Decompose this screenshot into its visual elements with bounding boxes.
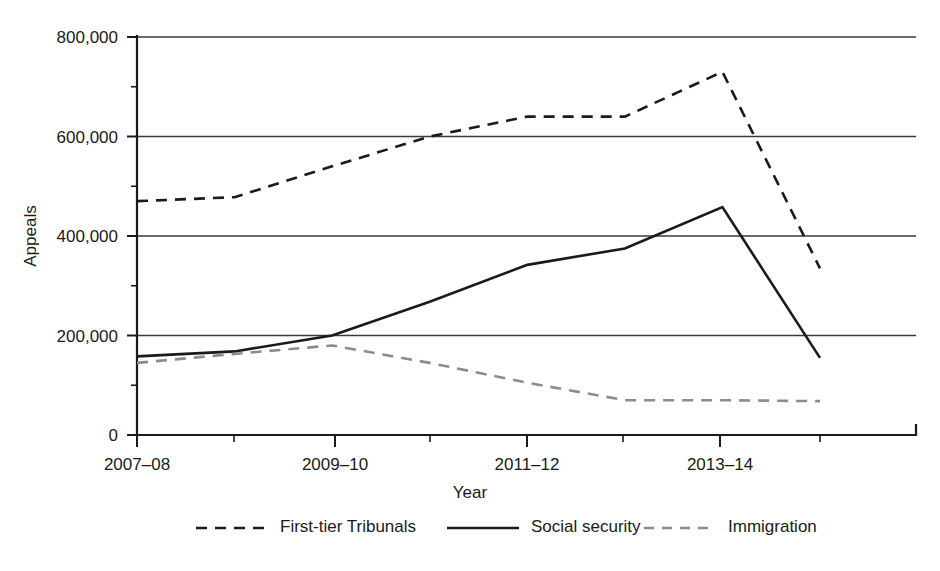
xtick-label-2009-10: 2009–10 xyxy=(302,455,368,474)
y-axis-tick-labels: 800,000 600,000 400,000 200,000 0 xyxy=(57,28,118,445)
legend-label-first-tier-tribunals: First-tier Tribunals xyxy=(280,517,416,536)
legend-label-social-security: Social security xyxy=(531,517,641,536)
ytick-label-400000: 400,000 xyxy=(57,227,118,246)
ytick-label-200000: 200,000 xyxy=(57,327,118,346)
chart-container: 800,000 600,000 400,000 200,000 0 Appeal… xyxy=(0,0,940,571)
y-axis-title: Appeals xyxy=(21,205,40,266)
ytick-label-0: 0 xyxy=(109,426,118,445)
ytick-label-800000: 800,000 xyxy=(57,28,118,47)
xtick-label-2013-14: 2013–14 xyxy=(687,455,753,474)
xtick-label-2011-12: 2011–12 xyxy=(495,455,560,474)
legend-label-immigration: Immigration xyxy=(728,517,817,536)
xtick-label-2007-08: 2007–08 xyxy=(104,455,170,474)
x-axis-title: Year xyxy=(453,483,488,502)
gridlines xyxy=(137,37,916,336)
chart-legend: First-tier Tribunals Social security Imm… xyxy=(196,517,817,536)
series-line-first-tier-tribunals xyxy=(137,72,820,269)
line-chart: 800,000 600,000 400,000 200,000 0 Appeal… xyxy=(0,0,940,571)
series-line-immigration xyxy=(137,345,820,401)
x-axis-ticks xyxy=(137,435,820,447)
y-axis-major-ticks xyxy=(127,37,137,435)
ytick-label-600000: 600,000 xyxy=(57,128,118,147)
x-axis-tick-labels: 2007–08 2009–10 2011–12 2013–14 xyxy=(104,455,753,474)
